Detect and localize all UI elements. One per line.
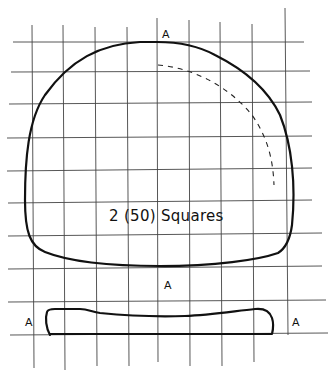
- grid-hline: [7, 136, 312, 138]
- grid-hline: [9, 102, 312, 104]
- pattern-diagram: A A A A 2 (50) Squares: [0, 0, 332, 375]
- grid-hline: [8, 200, 312, 203]
- strip-pattern-piece: [46, 309, 273, 335]
- grid-vline: [157, 18, 158, 362]
- grid-vline: [63, 25, 65, 370]
- grid-vline: [285, 8, 288, 335]
- diagram-caption: 2 (50) Squares: [109, 207, 224, 225]
- grid-hline: [8, 300, 326, 302]
- grid-hline: [7, 168, 312, 171]
- grid-hline: [11, 71, 310, 72]
- marker-bar-right-a: A: [292, 316, 300, 329]
- marker-bottom-a: A: [164, 279, 172, 292]
- marker-top-a: A: [162, 28, 170, 41]
- grid-hline: [8, 233, 322, 236]
- grid-vline: [220, 22, 222, 366]
- marker-bar-left-a: A: [25, 316, 33, 329]
- grid-vline: [95, 27, 97, 366]
- grid-vline: [252, 24, 254, 362]
